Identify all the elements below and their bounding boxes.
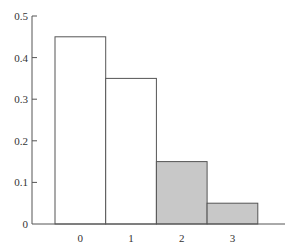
bar-3 (207, 203, 258, 224)
y-tick-label: 0.1 (14, 176, 28, 188)
x-tick-label: 1 (128, 232, 134, 244)
bar-0 (55, 37, 106, 224)
x-tick-label: 0 (78, 232, 84, 244)
y-tick-label: 0.4 (14, 52, 28, 64)
x-tick-label: 3 (230, 232, 236, 244)
bar-1 (106, 78, 157, 224)
y-tick-label: 0.5 (14, 10, 28, 22)
bar-chart: 012300.10.20.30.40.5 (0, 0, 293, 250)
x-tick-label: 2 (179, 232, 185, 244)
bar-2 (156, 162, 207, 224)
y-tick-label: 0 (23, 218, 29, 230)
y-tick-label: 0.2 (14, 135, 28, 147)
y-tick-label: 0.3 (14, 93, 28, 105)
